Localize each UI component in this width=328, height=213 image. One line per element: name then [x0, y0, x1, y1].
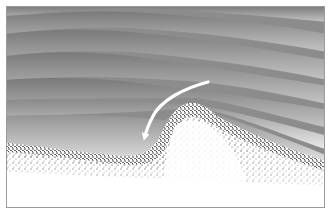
- diagram-canvas: [0, 0, 328, 213]
- airflow-diagram: [0, 0, 328, 213]
